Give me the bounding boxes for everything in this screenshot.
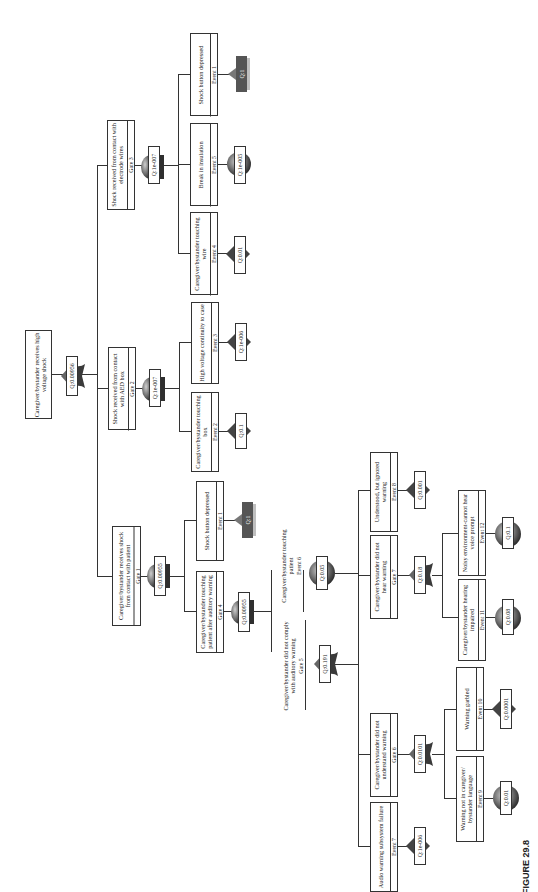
event-tag: Event 8 — [390, 452, 398, 532]
probability-label: Q:1 — [236, 56, 247, 91]
gate4-tag: Gate 4 — [216, 571, 224, 653]
connector — [97, 165, 98, 577]
figure-caption: FIGURE 29.8 — [519, 845, 533, 889]
connector — [179, 342, 180, 432]
gate5-box[interactable]: Caregiver/bystander did not comply with … — [280, 618, 306, 714]
event-label: Caregiver/bystander touching wire — [190, 212, 210, 295]
gate3-tag: Gate 3 — [127, 120, 135, 210]
probability-label: Q:1e-007 — [149, 369, 161, 407]
event-label: Caregiver/bystander hearing impaired — [458, 579, 478, 661]
probability-label: Q:0.05 — [316, 556, 328, 590]
connector — [358, 490, 359, 847]
event-tag: Event 3 — [211, 302, 219, 384]
g3-event1-box[interactable]: Shock button depressed Event 1 — [190, 33, 218, 116]
connector — [179, 342, 191, 343]
event-label: Warning not in caregiver/ bystander lang… — [456, 756, 476, 842]
event-label: Noisy environment-cannot hear voice prom… — [458, 490, 478, 576]
event-label: Break in insulation — [190, 123, 210, 206]
probability-label: Q:0.1 — [235, 413, 247, 449]
event-label: Shock button depressed — [196, 481, 216, 561]
gate4-box[interactable]: Caregiver/bystander touching patient aft… — [196, 571, 224, 653]
event-label: Caregiver/bystander touching patient — [278, 520, 296, 612]
connector — [358, 846, 370, 847]
gate6-label: Caregiver/bystander did not understand w… — [370, 713, 390, 797]
event-label: Understood, but ignored warning — [370, 452, 390, 532]
gate2-label: Shock received from contact with AED box — [108, 347, 128, 430]
event-tag: Event 9 — [476, 756, 484, 842]
event-label: Shock button depressed — [190, 33, 210, 116]
connector — [335, 573, 358, 574]
gate3-box[interactable]: Shock received from contact with electro… — [107, 120, 135, 210]
gate7-box[interactable]: Caregiver/bystander did not hear warning… — [370, 535, 398, 619]
g1-event1-box[interactable]: Shock button depressed Event 1 — [196, 481, 224, 561]
probability-label: Q:0.01 — [234, 236, 246, 274]
event-label: Warning garbled — [456, 667, 476, 751]
gate1-box[interactable]: Caregiver/bystander receives shock from … — [112, 526, 141, 626]
gate1-label: Caregiver/bystander receives shock from … — [112, 526, 133, 626]
connector — [178, 74, 190, 75]
event-tag: Event 2 — [211, 392, 219, 472]
event-label: Caregiver/bystander touching box — [191, 392, 211, 472]
event-tag: Event 11 — [478, 579, 486, 661]
connector — [179, 431, 191, 432]
connector — [97, 576, 112, 577]
gate5-label: Caregiver/bystander did not comply with … — [280, 618, 298, 714]
event-tag: Event 1 — [216, 481, 224, 561]
gate6-box[interactable]: Caregiver/bystander did not understand w… — [370, 713, 398, 797]
probability-label: Q:1e-007 — [148, 146, 160, 184]
probability-label: Q:1 — [242, 503, 253, 537]
event7-box[interactable]: Audio warning subsystem failure Event 7 — [370, 802, 398, 892]
event-tag: Event 6 — [296, 520, 303, 612]
probability-label: Q:0.191 — [319, 645, 331, 683]
event-tag: Event 1 — [210, 33, 218, 116]
probability-label: Q:1e-005 — [234, 146, 246, 184]
connector — [178, 253, 190, 254]
gate4-label: Caregiver/bystander touching patient aft… — [196, 571, 216, 653]
connector — [444, 798, 456, 799]
probability-label: Q:1e-006 — [235, 323, 247, 361]
g3-event5-box[interactable]: Break in insulation Event 5 — [190, 123, 218, 206]
event10-box[interactable]: Warning garbled Event 10 — [456, 667, 484, 751]
gate7-tag: Gate 7 — [390, 535, 398, 619]
gate3-label: Shock received from contact with electro… — [107, 120, 127, 210]
probability-label: Q:0.01 — [500, 781, 512, 815]
connector — [442, 533, 443, 617]
connector — [444, 709, 445, 799]
event-tag: Event 10 — [476, 667, 484, 751]
event9-box[interactable]: Warning not in caregiver/ bystander lang… — [456, 756, 484, 842]
probability-label: Q:0.001 — [414, 471, 426, 509]
event8-box[interactable]: Understood, but ignored warning Event 8 — [370, 452, 398, 532]
connector — [184, 611, 196, 612]
top-event-box[interactable]: Caregiver/bystander receives high voltag… — [25, 330, 52, 419]
connector — [358, 490, 370, 491]
connector — [271, 570, 272, 652]
connector — [358, 754, 370, 755]
connector — [442, 617, 458, 618]
connector — [184, 520, 185, 612]
gate5-tag: Gate 5 — [298, 618, 305, 714]
gate7-label: Caregiver/bystander did not hear warning — [370, 535, 390, 619]
event11-box[interactable]: Caregiver/bystander hearing impaired Eve… — [458, 579, 486, 661]
g2-event3-box[interactable]: High voltage continuity to case Event 3 — [191, 302, 219, 384]
g3-event4-box[interactable]: Caregiver/bystander touching wire Event … — [190, 212, 218, 295]
connector — [442, 533, 458, 534]
event-tag: Event 4 — [210, 212, 218, 295]
probability-label: Q:0.0101 — [414, 735, 426, 773]
event-tag: Event 7 — [390, 802, 398, 892]
probability-label: Q:0.18 — [414, 556, 426, 594]
event6-box[interactable]: Caregiver/bystander touching patient Eve… — [278, 520, 304, 612]
connector — [444, 709, 456, 710]
event-tag: Event 5 — [210, 123, 218, 206]
g2-event2-box[interactable]: Caregiver/bystander touching box Event 2 — [191, 392, 219, 472]
event-label: Audio warning subsystem failure — [370, 802, 390, 892]
event-label: High voltage continuity to case — [191, 302, 211, 384]
gate2-tag: Gate 2 — [128, 347, 136, 430]
probability-label: Q:0.08 — [502, 599, 514, 635]
gate6-tag: Gate 6 — [390, 713, 398, 797]
event-tag: Event 12 — [478, 490, 486, 576]
gate2-box[interactable]: Shock received from contact with AED box… — [108, 347, 136, 430]
probability-label: Q:1e-006 — [414, 827, 426, 865]
probability-label: Q:0.1 — [502, 517, 514, 549]
gate1-tag: Gate 1 — [133, 526, 141, 626]
event12-box[interactable]: Noisy environment-cannot hear voice prom… — [458, 490, 486, 576]
